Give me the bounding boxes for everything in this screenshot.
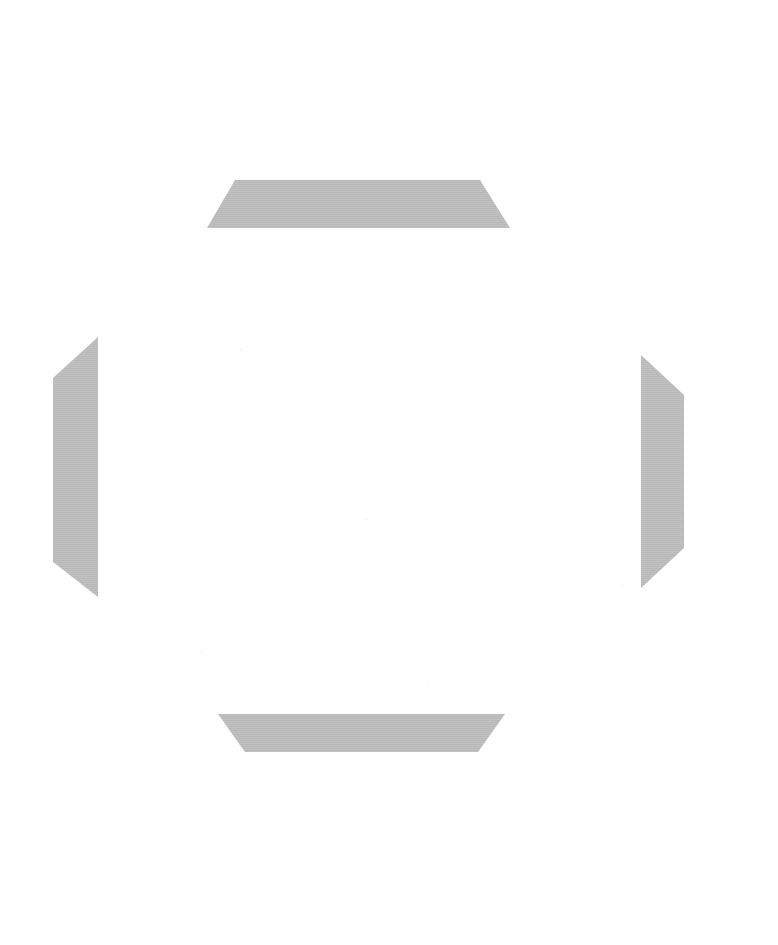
image-canvas bbox=[0, 0, 778, 945]
empty-center-region bbox=[98, 228, 641, 714]
right-bracket-shape bbox=[641, 355, 684, 588]
top-bracket-shape bbox=[207, 180, 510, 228]
bottom-bracket-shape bbox=[218, 714, 505, 752]
left-bracket-shape bbox=[53, 337, 98, 597]
